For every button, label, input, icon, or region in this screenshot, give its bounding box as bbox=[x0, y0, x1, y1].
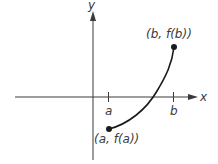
point-a-label: (a, f(a)) bbox=[94, 132, 139, 146]
y-axis-label: y bbox=[87, 0, 96, 12]
tick-label-b: b bbox=[170, 104, 178, 118]
x-axis-arrow-icon bbox=[188, 94, 198, 100]
function-curve bbox=[109, 47, 174, 129]
point-b-label: (b, f(b)) bbox=[146, 27, 192, 41]
point-b-marker bbox=[171, 44, 177, 50]
diagram-canvas: y x a b (a, f(a)) (b, f(b)) bbox=[0, 0, 218, 164]
y-axis-arrow-icon bbox=[90, 11, 96, 21]
tick-label-a: a bbox=[105, 104, 112, 118]
x-axis bbox=[15, 94, 198, 100]
x-axis-label: x bbox=[199, 90, 208, 104]
